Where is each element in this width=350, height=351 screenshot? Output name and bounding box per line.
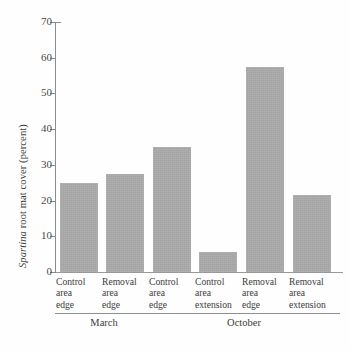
x-axis-label-line: extension (195, 299, 249, 310)
y-axis-title-italic: Spartina (17, 231, 28, 268)
chart-figure: Spartina root mat cover (percent) 010203… (0, 0, 350, 351)
y-tick-label: 20 (41, 194, 52, 206)
y-tick-label: 30 (41, 158, 52, 170)
x-axis-label-line: area (242, 287, 296, 298)
y-tick-label: 40 (41, 122, 52, 134)
y-axis-title: Spartina root mat cover (percent) (17, 124, 28, 268)
x-axis-baseline (56, 272, 343, 273)
x-axis-label-line: area (195, 287, 249, 298)
y-tick-label: 10 (41, 229, 52, 241)
bar (153, 147, 191, 272)
x-axis-label-line: edge (242, 299, 296, 310)
bar (106, 174, 144, 272)
y-tick-label: 70 (41, 15, 52, 27)
bar (60, 183, 98, 272)
y-axis-title-rest: root mat cover (percent) (17, 124, 28, 231)
group-label: October (148, 317, 340, 328)
group-rule (148, 313, 340, 314)
y-axis-title-container: Spartina root mat cover (percent) (0, 0, 20, 300)
x-axis-label-line: Removal (102, 276, 156, 287)
x-axis-label: Removalareaedge (242, 276, 296, 310)
group-rule (55, 313, 153, 314)
x-axis-label-line: Control (195, 276, 249, 287)
x-axis-label-line: Removal (289, 276, 343, 287)
group-label: March (55, 317, 153, 328)
x-axis-label-line: extension (289, 299, 343, 310)
x-axis-label-line: edge (102, 299, 156, 310)
bar (246, 67, 284, 272)
x-axis-label-line: area (102, 287, 156, 298)
bar (293, 195, 331, 272)
y-tick-label: 50 (41, 86, 52, 98)
x-axis-label-line: area (289, 287, 343, 298)
x-axis-label: Removalareaextension (289, 276, 343, 310)
x-axis-label: Removalareaedge (102, 276, 156, 310)
bar (199, 252, 237, 272)
x-axis-label-line: Removal (242, 276, 296, 287)
plot-area: 010203040506070 (56, 22, 342, 272)
y-tick-label: 0 (47, 265, 53, 277)
x-axis-label: Controlareaextension (195, 276, 249, 310)
y-tick-label: 60 (41, 51, 52, 63)
